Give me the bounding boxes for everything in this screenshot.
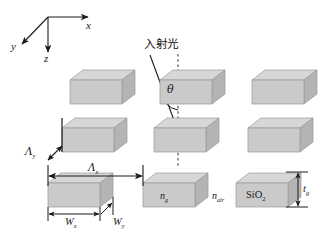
thickness-subscript: g <box>306 189 309 196</box>
thickness-label: tg <box>303 184 309 195</box>
pitch-y-subscript: y <box>33 152 36 159</box>
pitch-y-arrow <box>48 146 62 160</box>
theta-angle-label: θ <box>167 84 174 95</box>
block-r1-c1 <box>154 118 219 152</box>
block-r2-c0 <box>48 173 113 207</box>
pitch-y-symbol: Λ <box>25 145 33 157</box>
block-r1-c2 <box>248 118 313 152</box>
width-x-subscript: x <box>74 222 77 229</box>
block-r0-c2 <box>252 70 317 104</box>
width-y-subscript: y <box>122 222 125 229</box>
width-x-label: Wx <box>65 217 77 228</box>
pitch-x-subscript: x <box>96 168 99 175</box>
substrate-label: SiO2 <box>246 190 266 201</box>
block-r1-c0 <box>62 118 127 152</box>
incident-light-label: 入射光 <box>144 39 179 51</box>
width-x-symbol: W <box>65 216 74 227</box>
air-index-subscript: air <box>217 196 224 203</box>
grating-index-subscript: g <box>165 196 168 203</box>
pitch-y-dimension <box>48 118 62 160</box>
width-y-label: Wy <box>113 217 125 228</box>
pitch-x-symbol: Λ <box>88 161 96 173</box>
substrate-subscript: 2 <box>262 195 265 202</box>
y-axis-label: y <box>11 41 16 52</box>
width-y-symbol: W <box>113 216 122 227</box>
grating-schematic-figure: x y z 入射光 θ Λy Λx Wx Wy tg ng nair SiO2 <box>0 0 319 232</box>
substrate-symbol: SiO <box>246 189 262 200</box>
air-index-label: nair <box>212 191 224 201</box>
pitch-x-label: Λx <box>88 162 98 174</box>
pitch-y-label: Λy <box>25 146 35 158</box>
block-r0-c0 <box>70 70 135 104</box>
block-r2-c1 <box>143 173 208 207</box>
x-axis-label: x <box>86 20 91 31</box>
coordinate-axes <box>22 17 88 52</box>
block-grid <box>48 70 317 207</box>
y-axis-arrow <box>22 17 48 44</box>
grating-index-label: ng <box>160 191 168 201</box>
z-axis-label: z <box>44 53 48 64</box>
